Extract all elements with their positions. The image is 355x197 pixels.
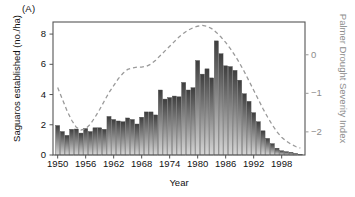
bar [191, 88, 195, 155]
bar [228, 67, 232, 155]
bar [233, 70, 237, 155]
bar [56, 126, 60, 155]
bar [186, 90, 190, 155]
bar [261, 131, 265, 155]
bar [88, 132, 92, 155]
bar [182, 82, 186, 155]
bar [149, 112, 153, 155]
bar [70, 129, 74, 155]
y-ticklabel-left: 2 [24, 119, 46, 130]
bar [205, 69, 209, 155]
bar [74, 129, 78, 155]
bar [60, 132, 64, 155]
bar [130, 119, 134, 155]
x-ticklabel: 1998 [265, 158, 299, 169]
y-ticklabel-right: −1 [311, 87, 335, 98]
y-ticklabel-left: 6 [24, 58, 46, 69]
bar [210, 78, 214, 155]
bar [168, 98, 172, 155]
bar [238, 80, 242, 155]
bar [247, 101, 251, 155]
bar [121, 122, 125, 155]
bar [144, 112, 148, 155]
bar [200, 74, 204, 155]
bar [196, 61, 200, 155]
bar [126, 118, 130, 155]
bar [116, 121, 120, 155]
bar [102, 129, 106, 155]
bar [219, 54, 223, 155]
bar [270, 144, 274, 155]
bar [65, 135, 69, 155]
bar [140, 117, 144, 155]
bar [256, 122, 260, 155]
bar-series [56, 41, 303, 155]
bar [112, 119, 116, 155]
y-ticklabel-right: −2 [311, 126, 335, 137]
bar [93, 128, 97, 155]
bar [135, 124, 139, 155]
bar [98, 128, 102, 155]
y-ticklabel-right: 0 [311, 49, 335, 60]
bar [79, 133, 83, 155]
bar [172, 96, 176, 155]
bar [275, 148, 279, 155]
bar [158, 90, 162, 155]
bar [242, 94, 246, 155]
bar [214, 41, 218, 155]
bar [266, 138, 270, 155]
bar [224, 66, 228, 155]
y-ticklabel-left: 4 [24, 89, 46, 100]
bar [163, 99, 167, 155]
y-ticklabel-left: 8 [24, 28, 46, 39]
bar [280, 151, 284, 155]
figure-panel: (A) Saguaros established (no./ha) Palmer… [0, 0, 355, 197]
bar [84, 129, 88, 155]
bar [107, 116, 111, 155]
bar [252, 113, 256, 155]
bar [177, 97, 181, 155]
bar [154, 115, 158, 155]
